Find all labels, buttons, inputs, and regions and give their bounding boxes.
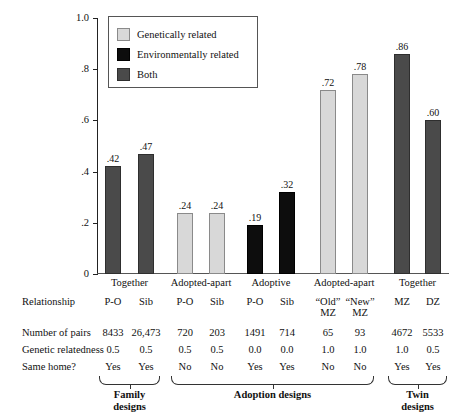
cell-genetic-relatedness: 0.5 xyxy=(411,344,455,355)
bar[interactable] xyxy=(320,90,336,274)
design-group-brace xyxy=(171,376,374,385)
bar-group: .78 xyxy=(352,18,368,274)
legend-item-label: Genetically related xyxy=(137,29,217,40)
chart-legend: Genetically relatedEnvironmentally relat… xyxy=(108,16,258,88)
cell-same-home: Yes xyxy=(265,361,309,372)
legend-swatch-icon xyxy=(117,68,130,81)
y-axis-tick-label-wrap: .6 xyxy=(55,115,89,125)
bar-value-label: .24 xyxy=(170,200,200,211)
bar-value-label: .24 xyxy=(202,200,232,211)
row-label-number-of-pairs: Number of pairs xyxy=(22,327,91,338)
cell-relationship: “New”MZ xyxy=(338,296,382,318)
cell-number-of-pairs: 26,473 xyxy=(124,327,168,338)
design-group-brace xyxy=(388,376,447,385)
cell-genetic-relatedness: 0.5 xyxy=(124,344,168,355)
design-group-label: Twindesigns xyxy=(368,389,455,413)
cell-number-of-pairs: 5533 xyxy=(411,327,455,338)
bar-value-label: .60 xyxy=(418,107,448,118)
cell-same-home: Yes xyxy=(124,361,168,372)
bar-value-label: .42 xyxy=(98,153,128,164)
bar-group: .86 xyxy=(394,18,410,274)
row-label-relationship: Relationship xyxy=(22,296,75,307)
figure-bar-chart-heritability: Correlation 0.2.4.6.81.0 .42.47.24.24.19… xyxy=(0,0,455,416)
y-axis-tick-label-wrap: .4 xyxy=(55,167,89,177)
bar-value-label: .86 xyxy=(387,41,417,52)
y-axis-tick xyxy=(93,274,98,275)
group-header: Adopted-apart xyxy=(304,277,384,288)
bar[interactable] xyxy=(177,213,193,274)
bar[interactable] xyxy=(279,192,295,274)
bar-value-label: .78 xyxy=(345,61,375,72)
bar[interactable] xyxy=(105,166,121,274)
legend-item-geneticallyrelated[interactable]: Genetically related xyxy=(117,24,257,44)
bar-value-label: .47 xyxy=(131,141,161,152)
y-axis-tick-label: .2 xyxy=(55,218,89,228)
data-table: Relationship Number of pairs Genetic rel… xyxy=(0,276,455,416)
y-axis-tick-label-wrap: .2 xyxy=(55,218,89,228)
design-group-label: Adoption designs xyxy=(151,389,394,401)
cell-relationship: Sib xyxy=(265,296,309,307)
y-axis-tick-label: .4 xyxy=(55,167,89,177)
bar[interactable] xyxy=(394,54,410,274)
cell-number-of-pairs: 714 xyxy=(265,327,309,338)
bar-group: .60 xyxy=(425,18,441,274)
bar[interactable] xyxy=(352,74,368,274)
bar-group: .72 xyxy=(320,18,336,274)
cell-relationship: Sib xyxy=(124,296,168,307)
legend-item-label: Environmentally related xyxy=(137,49,239,60)
legend-swatch-icon xyxy=(117,48,130,61)
cell-number-of-pairs: 93 xyxy=(338,327,382,338)
legend-item-environmentallyrelated[interactable]: Environmentally related xyxy=(117,44,257,64)
design-group-brace xyxy=(99,376,160,385)
bar[interactable] xyxy=(425,120,441,274)
bar-group: .32 xyxy=(279,18,295,274)
legend-item-label: Both xyxy=(137,69,157,80)
group-header: Together xyxy=(90,277,170,288)
group-header: Together xyxy=(378,277,455,288)
legend-item-both[interactable]: Both xyxy=(117,64,257,84)
bar-value-label: .19 xyxy=(240,212,270,223)
bar[interactable] xyxy=(247,225,263,274)
cell-genetic-relatedness: 0.0 xyxy=(265,344,309,355)
y-axis-tick-label: .6 xyxy=(55,115,89,125)
cell-relationship: DZ xyxy=(411,296,455,307)
y-axis-tick-label-wrap: .8 xyxy=(55,64,89,74)
bar[interactable] xyxy=(138,154,154,274)
group-header: Adopted-apart xyxy=(161,277,241,288)
legend-swatch-icon xyxy=(117,28,130,41)
y-axis-tick-label-wrap: 1.0 xyxy=(55,13,89,23)
cell-same-home: Yes xyxy=(411,361,455,372)
group-header: Adoptive xyxy=(231,277,311,288)
bar-value-label: .72 xyxy=(313,77,343,88)
bar[interactable] xyxy=(209,213,225,274)
bar-value-label: .32 xyxy=(272,179,302,190)
y-axis-tick-label: .8 xyxy=(55,64,89,74)
row-label-same-home: Same home? xyxy=(22,361,76,372)
cell-same-home: No xyxy=(338,361,382,372)
cell-genetic-relatedness: 1.0 xyxy=(338,344,382,355)
y-axis-tick-label: 1.0 xyxy=(55,13,89,23)
